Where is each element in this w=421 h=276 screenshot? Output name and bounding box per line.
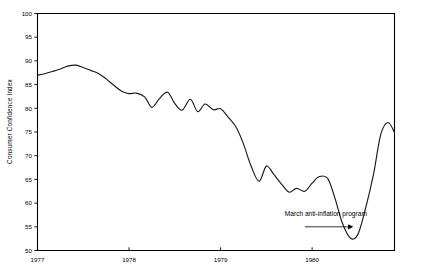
x-tick-label: 1977 [31, 256, 45, 263]
y-tick-label: 85 [25, 81, 32, 88]
y-tick-label: 80 [25, 105, 32, 112]
y-tick-label: 65 [25, 176, 32, 183]
x-tick-label: 1978 [122, 256, 136, 263]
y-tick-label: 95 [25, 33, 32, 40]
consumer-confidence-chart: Consumer Confidence Index 50556065707580… [0, 0, 421, 276]
y-tick-label: 90 [25, 57, 32, 64]
annotation-label: March anti-inflation program [285, 210, 368, 218]
x-tick-label: 1979 [214, 256, 228, 263]
right-arrow-icon [348, 224, 353, 229]
plot-area: 50556065707580859095100 1977197819791980… [0, 0, 421, 276]
annotation-group: March anti-inflation program [285, 210, 368, 229]
y-axis-ticks: 50556065707580859095100 [22, 10, 38, 254]
y-tick-label: 50 [25, 247, 32, 254]
x-axis-ticks: 1977197819791980 [31, 247, 320, 262]
y-tick-label: 100 [22, 10, 33, 17]
x-tick-label: 1980 [305, 256, 319, 263]
y-tick-label: 60 [25, 199, 32, 206]
y-tick-label: 70 [25, 152, 32, 159]
y-tick-label: 55 [25, 223, 32, 230]
y-tick-label: 75 [25, 128, 32, 135]
